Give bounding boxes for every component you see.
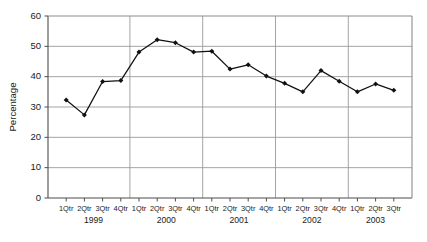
x-tick-label: 1Qtr	[59, 204, 74, 213]
x-tick-label: 3Qtr	[314, 204, 329, 213]
x-tick-label: 2Qtr	[223, 204, 238, 213]
y-tick-label: 0	[36, 192, 41, 203]
x-tick-label: 4Qtr	[332, 204, 347, 213]
y-tick-label: 20	[30, 131, 41, 142]
x-tick-label: 2Qtr	[77, 204, 92, 213]
x-tick-label: 4Qtr	[186, 204, 201, 213]
x-tick-label: 3Qtr	[241, 204, 256, 213]
x-tick-label: 4Qtr	[114, 204, 129, 213]
y-tick-label: 50	[30, 40, 41, 51]
x-tick-label: 2Qtr	[296, 204, 311, 213]
y-axis-title-text: Percentage	[7, 82, 18, 131]
x-tick-label: 1Qtr	[277, 204, 292, 213]
x-axis-year-label: 1999	[84, 215, 103, 225]
x-tick-label: 1Qtr	[205, 204, 220, 213]
x-axis-year-label: 2000	[157, 215, 176, 225]
y-tick-label: 60	[30, 10, 41, 21]
x-tick-label: 1Qtr	[132, 204, 147, 213]
y-tick-label: 30	[30, 101, 41, 112]
x-tick-label: 2Qtr	[368, 204, 383, 213]
x-tick-label: 4Qtr	[259, 204, 274, 213]
y-tick-label: 40	[30, 70, 41, 81]
x-axis-year-label: 2002	[302, 215, 321, 225]
y-axis-title: Percentage	[7, 82, 18, 131]
x-tick-label: 2Qtr	[150, 204, 165, 213]
y-tick-label: 10	[30, 161, 41, 172]
x-tick-label: 3Qtr	[95, 204, 110, 213]
x-tick-label: 3Qtr	[168, 204, 183, 213]
x-tick-label: 1Qtr	[350, 204, 365, 213]
line-chart: 0102030405060 1Qtr2Qtr3Qtr4Qtr1Qtr2Qtr3Q…	[0, 0, 427, 242]
x-axis-year-label: 2003	[366, 215, 385, 225]
x-tick-label: 3Qtr	[387, 204, 402, 213]
figure-container: 0102030405060 1Qtr2Qtr3Qtr4Qtr1Qtr2Qtr3Q…	[0, 0, 427, 242]
x-axis-year-label: 2001	[230, 215, 249, 225]
